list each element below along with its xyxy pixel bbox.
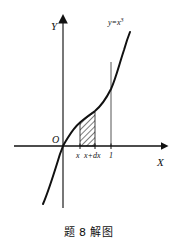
figure-root: Y X O y=x3 x x+dx 1 题 8 解图	[0, 0, 177, 246]
tick-label-one: 1	[109, 151, 113, 160]
tick-label-x: x	[75, 151, 80, 160]
curve-label-exponent: 3	[120, 17, 124, 23]
curve-label-base: y=x	[107, 18, 121, 27]
curve-equation-label: y=x3	[107, 17, 124, 27]
cubic-function-diagram: Y X O y=x3 x x+dx 1	[0, 0, 177, 216]
origin-label: O	[52, 134, 59, 145]
x-axis-label: X	[156, 156, 165, 168]
y-axis-label: Y	[51, 20, 59, 32]
plot-area: Y X O y=x3 x x+dx 1	[0, 0, 177, 216]
cubic-curve	[43, 32, 130, 204]
figure-caption: 题 8 解图	[0, 216, 177, 246]
tick-label-x-plus-dx: x+dx	[83, 151, 101, 160]
